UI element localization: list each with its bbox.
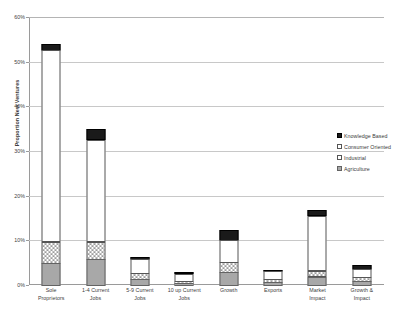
y-axis-tick-label: 40% — [14, 103, 25, 109]
x-axis-label-line: Growth — [207, 287, 251, 295]
bars-layer — [29, 17, 384, 285]
bar-stack[interactable] — [175, 272, 194, 285]
y-axis-tick-label: 20% — [14, 193, 25, 199]
chart-legend: Knowledge BasedConsumer OrientedIndustri… — [337, 130, 412, 174]
bar-segment-agriculture[interactable] — [219, 272, 238, 285]
x-axis-label-line: Sole — [29, 287, 73, 295]
stacked-column-chart: Proportion New Ventures 0%10%20%30%40%50… — [0, 0, 412, 313]
bar-segment-agriculture[interactable] — [175, 283, 194, 286]
x-axis-label: 10 up CurrentJobs — [162, 287, 206, 302]
legend-swatch-icon — [337, 133, 342, 138]
bar-segment-industrial[interactable] — [219, 262, 238, 273]
bar-segment-knowledge-based[interactable] — [219, 230, 238, 241]
x-axis-label: SoleProprietors — [29, 287, 73, 302]
legend-item-label: Consumer Oriented — [344, 144, 391, 150]
bar-segment-agriculture[interactable] — [130, 279, 149, 286]
bar-segment-consumer-oriented[interactable] — [42, 50, 61, 242]
bar-stack[interactable] — [86, 129, 105, 285]
legend-swatch-icon — [337, 144, 342, 149]
bar-segment-consumer-oriented[interactable] — [86, 140, 105, 243]
bar-slot — [207, 17, 251, 285]
y-axis-tick-label: 30% — [14, 148, 25, 154]
plot-area: 0%10%20%30%40%50%60% — [29, 17, 384, 285]
bar-segment-industrial[interactable] — [42, 242, 61, 264]
bar-segment-knowledge-based[interactable] — [86, 129, 105, 140]
x-axis-label: 1-4 CurrentJobs — [73, 287, 117, 302]
x-axis-label-line: Exports — [251, 287, 295, 295]
y-axis-tick — [26, 285, 29, 286]
x-axis-label: Exports — [251, 287, 295, 295]
bar-slot — [162, 17, 206, 285]
y-axis-tick-label: 10% — [14, 237, 25, 243]
bar-stack[interactable] — [308, 210, 327, 285]
legend-item[interactable]: Agriculture — [337, 163, 412, 174]
legend-item[interactable]: Industrial — [337, 152, 412, 163]
x-axis-label-line: Jobs — [73, 295, 117, 303]
legend-swatch-icon — [337, 155, 342, 160]
bar-segment-consumer-oriented[interactable] — [219, 240, 238, 262]
x-axis-label-line: Impact — [295, 295, 339, 303]
bar-segment-agriculture[interactable] — [42, 263, 61, 285]
x-axis-label: Growth &Impact — [340, 287, 384, 302]
y-axis-tick-label: 60% — [14, 14, 25, 20]
legend-swatch-icon — [337, 166, 342, 171]
bar-stack[interactable] — [130, 257, 149, 285]
legend-item-label: Industrial — [344, 155, 366, 161]
legend-item[interactable]: Knowledge Based — [337, 130, 412, 141]
bar-stack[interactable] — [42, 44, 61, 285]
bar-slot — [29, 17, 73, 285]
x-axis-label: 5-9 CurrentJobs — [118, 287, 162, 302]
x-axis-label-line: Market — [295, 287, 339, 295]
bar-slot — [73, 17, 117, 285]
x-axis-label-line: Proprietors — [29, 295, 73, 303]
x-axis-label-line: 5-9 Current — [118, 287, 162, 295]
bar-segment-agriculture[interactable] — [308, 277, 327, 286]
bar-slot — [251, 17, 295, 285]
x-axis-label-line: Jobs — [118, 295, 162, 303]
bar-slot — [295, 17, 339, 285]
bar-segment-agriculture[interactable] — [86, 259, 105, 286]
bar-segment-industrial[interactable] — [86, 242, 105, 260]
x-axis-label: MarketImpact — [295, 287, 339, 302]
bar-stack[interactable] — [219, 230, 238, 285]
x-axis-label-line: 10 up Current — [162, 287, 206, 295]
x-axis-label-line: Growth & — [340, 287, 384, 295]
legend-item[interactable]: Consumer Oriented — [337, 141, 412, 152]
bar-slot — [118, 17, 162, 285]
legend-item-label: Knowledge Based — [344, 133, 387, 139]
y-axis-tick-label: 0% — [17, 282, 25, 288]
x-axis-label-line: 1-4 Current — [73, 287, 117, 295]
bar-segment-consumer-oriented[interactable] — [308, 216, 327, 272]
x-axis-labels: SoleProprietors1-4 CurrentJobs5-9 Curren… — [29, 287, 384, 313]
x-axis-label-line: Impact — [340, 295, 384, 303]
bar-segment-consumer-oriented[interactable] — [130, 259, 149, 274]
x-axis-label: Growth — [207, 287, 251, 295]
bar-segment-agriculture[interactable] — [352, 281, 371, 285]
legend-item-label: Agriculture — [344, 166, 370, 172]
x-axis-label-line: Jobs — [162, 295, 206, 303]
bar-segment-agriculture[interactable] — [264, 282, 283, 286]
bar-stack[interactable] — [352, 265, 371, 285]
y-axis-tick-label: 50% — [14, 59, 25, 65]
bar-stack[interactable] — [264, 270, 283, 285]
